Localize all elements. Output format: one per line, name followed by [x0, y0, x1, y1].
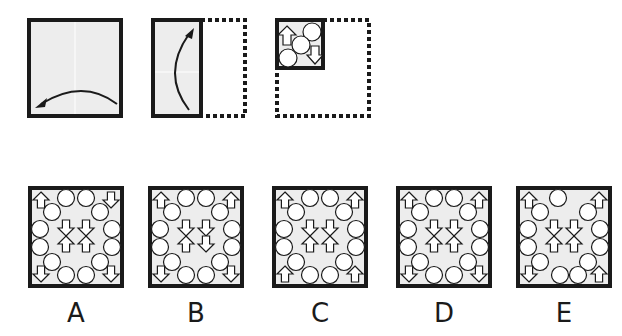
circle-icon — [472, 221, 489, 238]
option-d-box[interactable] — [396, 186, 492, 288]
circle-icon — [164, 254, 181, 271]
circle-icon — [212, 254, 229, 271]
circle-icon — [400, 239, 417, 256]
circle-icon — [322, 190, 339, 207]
option-label-c[interactable]: C — [272, 298, 368, 328]
circle-icon — [152, 239, 169, 256]
circle-icon — [460, 254, 477, 271]
circle-icon — [570, 267, 587, 284]
step-1-full-sheet — [27, 18, 123, 118]
circle-icon — [152, 221, 169, 238]
circle-icon — [198, 190, 215, 207]
circle-icon — [58, 190, 75, 207]
circle-icon — [412, 254, 429, 271]
circle-icon — [104, 239, 121, 256]
option-e-box[interactable] — [516, 186, 612, 288]
circle-icon — [426, 267, 443, 284]
option-a-box[interactable] — [28, 186, 124, 288]
circle-icon — [92, 254, 109, 271]
circle-icon — [348, 221, 365, 238]
option-c-box[interactable] — [272, 186, 368, 288]
step-2-half-sheet — [151, 18, 247, 118]
circle-icon — [532, 204, 549, 221]
circle-icon — [302, 267, 319, 284]
circle-icon — [198, 267, 215, 284]
circle-icon — [276, 239, 293, 256]
circle-icon — [104, 221, 121, 238]
circle-icon — [212, 204, 229, 221]
circle-icon — [224, 239, 241, 256]
circle-icon — [164, 204, 181, 221]
step-3-punched-quarter — [275, 18, 371, 118]
circle-icon — [348, 239, 365, 256]
circle-icon — [460, 204, 477, 221]
circle-icon — [78, 267, 95, 284]
circle-icon — [58, 267, 75, 284]
circle-icon — [472, 239, 489, 256]
circle-icon — [78, 190, 95, 207]
circle-icon — [336, 204, 353, 221]
circle-icon — [532, 254, 549, 271]
option-label-b[interactable]: B — [148, 298, 244, 328]
option-label-d[interactable]: D — [396, 298, 492, 328]
circle-icon — [446, 267, 463, 284]
circle-icon — [426, 190, 443, 207]
circle-icon — [592, 239, 609, 256]
circle-icon — [279, 49, 297, 67]
circle-icon — [92, 204, 109, 221]
circle-icon — [446, 190, 463, 207]
circle-icon — [178, 267, 195, 284]
circle-icon — [400, 221, 417, 238]
circle-icon — [592, 221, 609, 238]
circle-icon — [276, 221, 293, 238]
circle-icon — [336, 254, 353, 271]
circle-icon — [302, 190, 319, 207]
circle-icon — [552, 267, 569, 284]
circle-icon — [550, 190, 567, 207]
option-label-a[interactable]: A — [28, 298, 124, 328]
circle-icon — [322, 267, 339, 284]
circle-icon — [224, 221, 241, 238]
circle-icon — [520, 221, 537, 238]
circle-icon — [32, 239, 49, 256]
circle-icon — [44, 254, 61, 271]
circle-icon — [520, 239, 537, 256]
circle-icon — [178, 190, 195, 207]
circle-icon — [44, 204, 61, 221]
option-b-box[interactable] — [148, 186, 244, 288]
circle-icon — [288, 254, 305, 271]
option-label-e[interactable]: E — [516, 298, 612, 328]
circle-icon — [32, 221, 49, 238]
circle-icon — [580, 204, 597, 221]
circle-icon — [412, 204, 429, 221]
circle-icon — [288, 204, 305, 221]
